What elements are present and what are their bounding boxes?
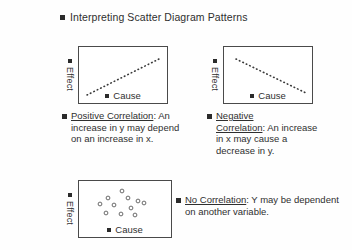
square-bullet-icon [62,114,67,119]
square-bullet-icon [68,59,72,63]
x-axis-label-text: Cause [115,224,142,235]
square-bullet-icon [213,59,217,63]
caption-negative-correlation: NegativeCorrelation: An increase in x ma… [207,110,327,156]
y-axis-label-positive: Effect [62,46,78,104]
plot-area-positive: Cause [78,46,168,104]
x-axis-label-negative: Cause [224,90,312,101]
caption-negative-text: NegativeCorrelation: An increase in x ma… [216,110,327,156]
y-axis-label-none: Effect [62,180,78,238]
plot-area-negative: Cause [223,46,313,104]
x-axis-label-text: Cause [113,90,140,101]
square-bullet-icon [176,198,181,203]
caption-negative-term2: Correlation [216,122,262,133]
caption-none-text: No Correlation: Y may be dependent on an… [185,194,348,217]
y-axis-label-text: Effect [65,67,75,91]
y-axis-label-text: Effect [65,201,75,225]
square-bullet-icon [107,228,111,232]
caption-no-correlation: No Correlation: Y may be dependent on an… [176,194,348,217]
caption-none-term: No Correlation [185,194,246,205]
caption-positive-term: Positive Correlation [71,110,153,121]
no-correlation-chart: Effect Cause [62,180,172,238]
negative-correlation-chart: Effect Cause [207,46,313,104]
y-axis-label-text: Effect [210,67,220,91]
positive-correlation-chart: Effect Cause [62,46,168,104]
square-bullet-icon [250,94,254,98]
x-axis-label-text: Cause [258,90,285,101]
page-title-text: Interpreting Scatter Diagram Patterns [70,11,248,23]
y-axis-label-negative: Effect [207,46,223,104]
caption-positive-text: Positive Correlation: An increase in y m… [71,110,186,145]
x-axis-label-positive: Cause [79,90,167,101]
caption-positive-correlation: Positive Correlation: An increase in y m… [62,110,186,145]
square-bullet-icon [105,94,109,98]
square-bullet-icon [60,15,65,20]
x-axis-label-none: Cause [79,224,171,235]
plot-area-none: Cause [78,180,172,238]
square-bullet-icon [207,114,212,119]
page-title: Interpreting Scatter Diagram Patterns [60,11,248,23]
slide-canvas: Interpreting Scatter Diagram Patterns Ef… [0,0,352,250]
square-bullet-icon [68,193,72,197]
caption-negative-term: Negative [216,110,254,121]
